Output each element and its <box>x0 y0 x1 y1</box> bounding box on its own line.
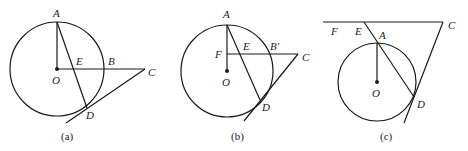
label-d: D <box>85 109 94 121</box>
label-d: D <box>261 101 270 113</box>
caption-b: (b) <box>231 130 244 143</box>
label-d: D <box>416 98 425 110</box>
label-c: C <box>148 66 156 78</box>
figure-a: A O E B C D (a) <box>10 7 156 143</box>
tangent-line-cd <box>66 69 145 123</box>
center-point <box>225 69 229 73</box>
label-f: F <box>214 48 222 60</box>
label-c: C <box>302 51 310 63</box>
center-point <box>55 67 59 71</box>
label-o: O <box>372 87 380 99</box>
caption-c: (c) <box>380 130 393 143</box>
segment-ad <box>227 25 260 100</box>
label-o: O <box>52 74 60 86</box>
label-e: E <box>354 25 362 37</box>
label-b-prime: B′ <box>270 40 280 52</box>
figure-b: A F O E B′ C D (b) <box>181 8 310 143</box>
label-e: E <box>75 55 83 67</box>
label-b: B <box>108 55 115 67</box>
segment-ed <box>364 22 414 97</box>
tangent-line-cd <box>244 54 298 121</box>
label-e: E <box>242 40 250 52</box>
label-a: A <box>222 8 230 20</box>
label-f: F <box>330 25 338 37</box>
caption-a: (a) <box>61 130 74 143</box>
center-point <box>375 80 379 84</box>
label-c: C <box>448 19 456 31</box>
label-a: A <box>52 7 60 19</box>
label-o: O <box>222 76 230 88</box>
geometry-figures: A O E B C D (a) A F O E B′ C D (b) F E A… <box>0 0 468 151</box>
label-a: A <box>378 29 386 41</box>
figure-c: F E A C O D (c) <box>323 19 456 143</box>
